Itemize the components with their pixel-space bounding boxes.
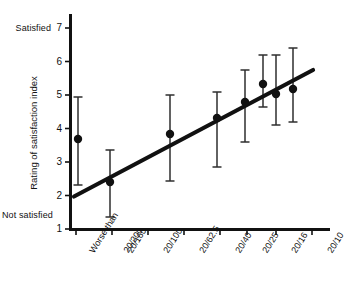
data-point (289, 85, 297, 93)
data-point (74, 135, 82, 143)
error-bar (213, 92, 222, 167)
data-point (259, 80, 267, 88)
data-point (241, 98, 249, 106)
error-bars (74, 48, 298, 217)
trend-line (74, 70, 313, 197)
data-point (213, 114, 221, 122)
data-point (106, 178, 114, 186)
data-point (272, 90, 280, 98)
data-point (166, 130, 174, 138)
